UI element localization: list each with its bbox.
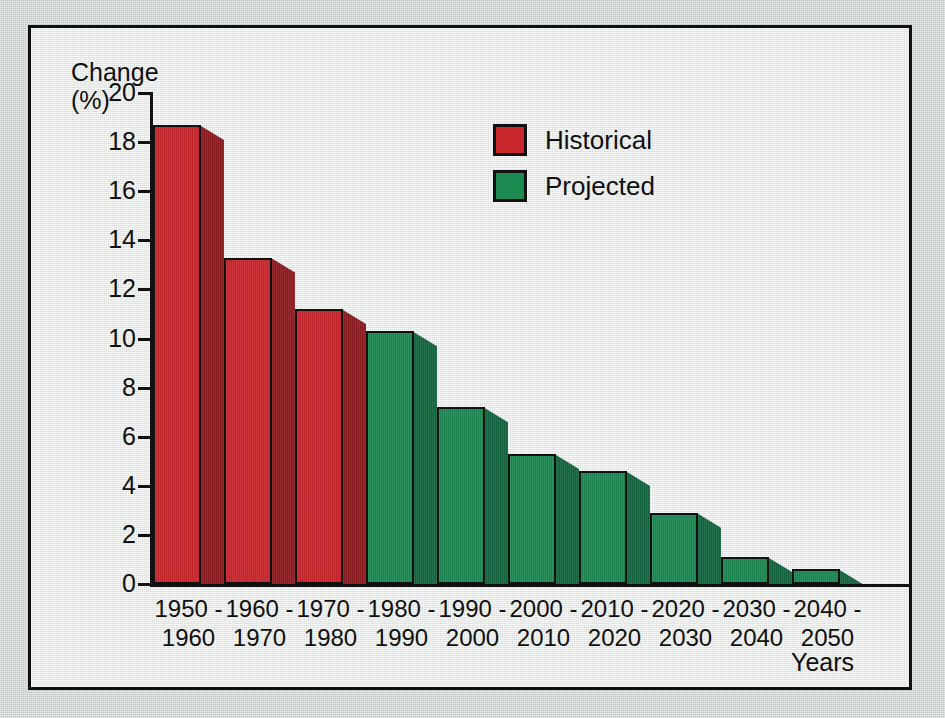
bar-side-face <box>769 558 792 584</box>
bar-4 <box>437 28 508 584</box>
bar-front-face <box>366 331 414 584</box>
x-axis-label-7: 2020 - 2030 <box>650 594 721 653</box>
bar-side-face <box>272 259 295 585</box>
bar-front-face <box>224 258 272 585</box>
legend-swatch-projected <box>493 170 527 202</box>
y-tick-label-12: 12 <box>90 276 136 301</box>
bar-2 <box>295 28 366 584</box>
x-axis-label-3: 1980 - 1990 <box>366 594 437 653</box>
bar-side-face <box>627 472 650 584</box>
x-axis-line <box>150 584 910 587</box>
y-tick-label-18: 18 <box>90 129 136 154</box>
bar-6 <box>579 28 650 584</box>
bar-side-face <box>840 570 863 584</box>
x-axis-label-1: 1960 - 1970 <box>224 594 295 653</box>
y-axis-ticks: 20181614121086420 <box>31 28 136 687</box>
bar-7 <box>650 28 721 584</box>
x-axis-label-8: 2030 - 2040 <box>721 594 792 653</box>
bar-side-face <box>698 514 721 584</box>
chart-legend: Historical Projected <box>493 124 655 216</box>
bar-side-face <box>343 310 366 584</box>
bar-side-face <box>485 408 508 584</box>
y-tick-label-20: 20 <box>90 80 136 105</box>
bar-front-face <box>153 125 201 584</box>
y-tick-label-0: 0 <box>90 571 136 596</box>
bar-0 <box>153 28 224 584</box>
bar-side-face <box>556 455 579 584</box>
y-tick-label-6: 6 <box>90 424 136 449</box>
plot-area: Change(%) 20181614121086420 1950 - 19601… <box>31 28 909 687</box>
x-axis-title: Years <box>791 648 854 677</box>
x-axis-label-9: 2040 - 2050 <box>792 594 863 653</box>
bar-front-face <box>721 557 769 584</box>
x-axis-label-2: 1970 - 1980 <box>295 594 366 653</box>
legend-item-projected: Projected <box>493 170 655 202</box>
legend-label-historical: Historical <box>545 125 652 156</box>
bar-front-face <box>792 569 840 584</box>
y-tick-label-10: 10 <box>90 326 136 351</box>
bar-side-face <box>414 332 437 584</box>
bar-front-face <box>508 454 556 584</box>
bar-3 <box>366 28 437 584</box>
x-axis-label-6: 2010 - 2020 <box>579 594 650 653</box>
bar-side-face <box>201 126 224 584</box>
bar-front-face <box>579 471 627 584</box>
bar-front-face <box>650 513 698 584</box>
bar-5 <box>508 28 579 584</box>
legend-item-historical: Historical <box>493 124 655 156</box>
y-tick-label-16: 16 <box>90 178 136 203</box>
legend-swatch-historical <box>493 124 527 156</box>
y-tick-label-4: 4 <box>90 473 136 498</box>
bar-1 <box>224 28 295 584</box>
x-axis-label-0: 1950 - 1960 <box>153 594 224 653</box>
y-tick-label-14: 14 <box>90 227 136 252</box>
x-axis-label-5: 2000 - 2010 <box>508 594 579 653</box>
y-tick-label-8: 8 <box>90 375 136 400</box>
bar-9 <box>792 28 863 584</box>
bar-front-face <box>437 407 485 584</box>
y-tick-label-2: 2 <box>90 522 136 547</box>
legend-label-projected: Projected <box>545 171 655 202</box>
chart-screenshot: Change(%) 20181614121086420 1950 - 19601… <box>0 0 945 718</box>
bar-8 <box>721 28 792 584</box>
chart-frame: Change(%) 20181614121086420 1950 - 19601… <box>28 25 912 690</box>
x-axis-label-4: 1990 - 2000 <box>437 594 508 653</box>
bar-front-face <box>295 309 343 584</box>
